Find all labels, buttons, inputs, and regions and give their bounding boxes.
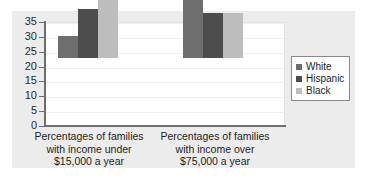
y-axis-tick-label: 30 bbox=[3, 31, 37, 42]
chart-legend: WhiteHispanicBlack bbox=[291, 56, 350, 101]
y-axis-tick bbox=[39, 37, 45, 38]
gridline bbox=[45, 112, 284, 113]
gridline bbox=[45, 68, 284, 69]
y-axis-tick bbox=[39, 126, 45, 127]
y-axis-tick-label: 20 bbox=[3, 61, 37, 72]
legend-entry-white[interactable]: White bbox=[296, 61, 345, 72]
y-axis-tick bbox=[39, 81, 45, 82]
legend-swatch-icon bbox=[296, 88, 302, 94]
gridline bbox=[45, 82, 284, 83]
y-axis-tick-label: 25 bbox=[3, 46, 37, 57]
legend-entry-hispanic[interactable]: Hispanic bbox=[296, 73, 345, 84]
bar-group-income-over-75000 bbox=[183, 0, 244, 58]
bar-hispanic-group-1 bbox=[203, 13, 223, 58]
bar-black-group-1 bbox=[223, 13, 243, 58]
legend-label: Hispanic bbox=[306, 73, 344, 84]
legend-swatch-icon bbox=[296, 76, 302, 82]
x-axis-line bbox=[44, 125, 286, 127]
bar-hispanic-group-0 bbox=[78, 9, 98, 58]
y-axis-tick bbox=[39, 67, 45, 68]
bar-group-income-under-15000 bbox=[58, 0, 119, 58]
bar-white-group-1 bbox=[183, 0, 203, 58]
x-axis-label-group-0: Percentages of families with income unde… bbox=[22, 130, 156, 168]
y-axis-tick-label: 5 bbox=[3, 105, 37, 116]
y-axis-tick-label: 10 bbox=[3, 90, 37, 101]
legend-swatch-icon bbox=[296, 64, 302, 70]
y-axis-tick bbox=[39, 52, 45, 53]
legend-entry-black[interactable]: Black bbox=[296, 85, 345, 96]
y-axis-tick bbox=[39, 22, 45, 23]
y-axis-tick-label: 35 bbox=[3, 16, 37, 27]
bar-black-group-0 bbox=[98, 0, 118, 58]
gridline bbox=[45, 97, 284, 98]
y-axis-tick-label: 15 bbox=[3, 75, 37, 86]
legend-label: Black bbox=[306, 85, 330, 96]
x-axis-label-group-1: Percentages of families with income over… bbox=[148, 130, 282, 168]
y-axis-tick bbox=[39, 96, 45, 97]
bar-white-group-0 bbox=[58, 36, 78, 58]
bar-chart-figure: 05101520253035 Percentages of families w… bbox=[0, 0, 368, 184]
y-axis-tick bbox=[39, 111, 45, 112]
legend-label: White bbox=[306, 61, 332, 72]
